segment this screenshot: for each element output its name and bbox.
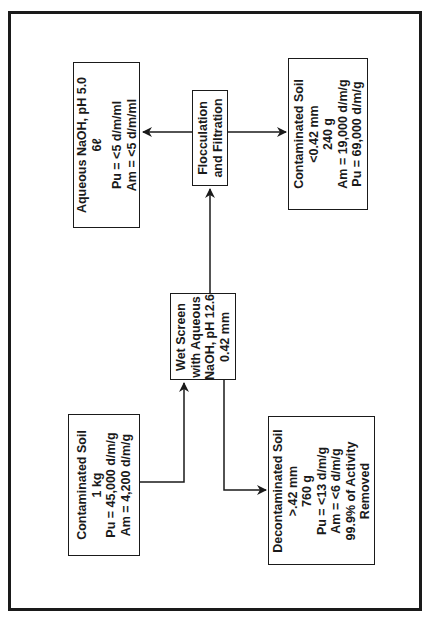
text-line: Pu = 45,000 d/m/g xyxy=(104,430,119,540)
node-contaminated-fines: Contaminated Soil <0.42 mm 240 g Am = 19… xyxy=(288,58,368,210)
text-line: Contaminated Soil xyxy=(75,430,90,540)
node-feed-text: Contaminated Soil 1 kg Pu = 45,000 d/m/g… xyxy=(75,430,133,540)
text-line: Pu = <5 d/m/ml xyxy=(110,77,125,213)
node-flocculation-text: Flocculation and Filtration xyxy=(196,98,225,177)
text-line: >.42 mm xyxy=(285,429,300,553)
text-line: Am = 19,000 d/m/g xyxy=(335,79,350,189)
arrow-feed-to-wetscreen xyxy=(140,383,184,482)
text-line: Pu = 69,000 d/m/g xyxy=(350,79,365,189)
text-line: 240 g xyxy=(321,79,336,189)
text-line: 6ℓ xyxy=(89,77,104,213)
node-flocculation-filtration: Flocculation and Filtration xyxy=(192,90,228,186)
text-line: Flocculation xyxy=(196,98,211,177)
text-line: 99.9% of Activity xyxy=(343,429,358,553)
text-line: Removed xyxy=(358,429,373,553)
node-decontaminated-soil: Decontaminated Soil >.42 mm 760 g Pu = <… xyxy=(268,416,375,565)
text-line: NaOH, pH 12.6 xyxy=(203,293,218,379)
text-line: Wet Screen xyxy=(174,293,189,379)
text-line: <0.42 mm xyxy=(306,79,321,189)
text-line: and Filtration xyxy=(210,98,225,177)
text-line: Am = <6 d/m/g xyxy=(329,429,344,553)
node-wet-screen-text: Wet Screen with Aqueous NaOH, pH 12.6 0.… xyxy=(174,293,232,379)
text-line: 0.42 mm xyxy=(218,293,233,379)
text-line: Am = <5 d/m/ml xyxy=(124,77,139,213)
text-line: Pu = <13 d/m/g xyxy=(314,429,329,553)
text-line: with Aqueous xyxy=(189,293,204,379)
text-line: Am = 4,200 d/m/g xyxy=(119,430,134,540)
node-decontaminated-text: Decontaminated Soil >.42 mm 760 g Pu = <… xyxy=(271,429,373,553)
arrow-wetscreen-to-decontaminated xyxy=(224,380,266,490)
node-aqueous-naoh: Aqueous NaOH, pH 5.0 6ℓ Pu = <5 d/m/ml A… xyxy=(73,62,140,228)
text-line: 1 kg xyxy=(90,430,105,540)
node-aqueous-naoh-text: Aqueous NaOH, pH 5.0 6ℓ Pu = <5 d/m/ml A… xyxy=(75,77,139,213)
node-wet-screen: Wet Screen with Aqueous NaOH, pH 12.6 0.… xyxy=(170,293,236,380)
text-line: Aqueous NaOH, pH 5.0 xyxy=(75,77,90,213)
text-line: 760 g xyxy=(300,429,315,553)
text-line: Contaminated Soil xyxy=(292,79,307,189)
node-contaminated-soil-feed: Contaminated Soil 1 kg Pu = 45,000 d/m/g… xyxy=(68,414,140,556)
node-fines-text: Contaminated Soil <0.42 mm 240 g Am = 19… xyxy=(292,79,365,189)
text-line: Decontaminated Soil xyxy=(271,429,286,553)
